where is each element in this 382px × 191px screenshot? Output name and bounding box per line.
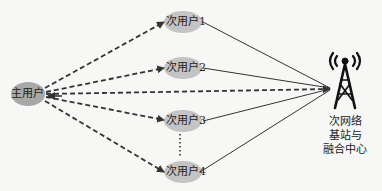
fusion-center-line-1: 次网络 — [315, 115, 375, 129]
spectrum-sensing-diagram: 主用户 次用户1 次用户2 次用户3 次用户4 次网络 基站与 融合中心 — [0, 0, 382, 191]
diagram-canvas — [0, 0, 382, 191]
primary-user-label: 主用户 — [11, 88, 44, 100]
fusion-center-line-3: 融合中心 — [315, 143, 375, 157]
secondary-user-2-label: 次用户2 — [166, 62, 206, 74]
primary-to-su1-arrow — [45, 22, 164, 88]
secondary-user-3-label: 次用户3 — [166, 115, 206, 127]
secondary-user-1-label: 次用户1 — [166, 16, 206, 28]
fusion-center-label: 次网络 基站与 融合中心 — [315, 115, 375, 157]
primary-to-su2-arrow — [46, 68, 164, 92]
radio-tower-icon — [330, 53, 360, 108]
su3-to-center-line — [203, 89, 330, 121]
su4-to-center-line — [200, 90, 330, 172]
primary-to-center-arrow — [46, 89, 330, 94]
fusion-center-line-2: 基站与 — [315, 129, 375, 143]
primary-to-su4-arrow — [45, 101, 164, 172]
secondary-user-4-label: 次用户4 — [166, 166, 206, 178]
primary-to-su3-arrow — [46, 97, 164, 120]
